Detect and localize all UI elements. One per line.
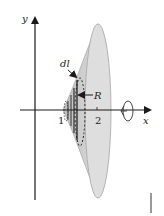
rotation-icon — [121, 101, 133, 121]
tick-label-2: 2 — [95, 115, 101, 126]
x-axis-label: x — [143, 115, 149, 126]
base-ellipse — [85, 24, 111, 198]
surface-of-revolution-diagram: y x 1 2 dl R — [0, 0, 164, 216]
dl-arrow — [68, 70, 76, 77]
tick-label-1: 1 — [58, 115, 64, 126]
y-axis-label: y — [21, 13, 28, 24]
cone-surface — [63, 24, 111, 198]
radius-label: R — [93, 90, 102, 101]
dl-label: dl — [60, 58, 70, 69]
